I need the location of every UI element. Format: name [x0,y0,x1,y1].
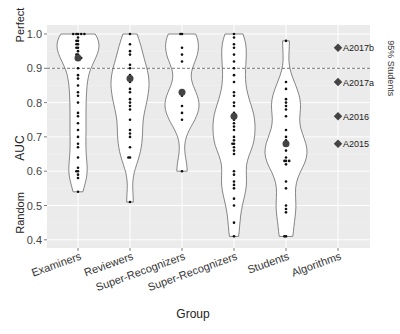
data-point [285,40,288,43]
data-point [181,118,184,121]
data-point [83,33,86,36]
data-point [233,33,236,36]
data-point [285,88,288,91]
data-point [77,166,80,169]
y-annotation-perfect: Perfect [14,8,26,43]
data-point [233,139,236,142]
mean-marker [75,55,82,62]
data-point [75,46,78,49]
violin-chart: A2017bA2017aA2016A2015 0.40.50.60.70.80.… [0,0,400,334]
data-point [233,60,236,63]
data-point [285,136,288,139]
x-tick-label: Algorithms [290,249,343,278]
data-point [233,204,236,207]
x-tick-label: Super-Recognizers [146,249,239,293]
data-point [129,53,132,56]
data-point [233,101,236,104]
data-point [129,50,132,53]
data-point [179,33,182,36]
data-point [75,43,78,46]
algorithm-label: A2015 [343,139,369,149]
algorithm-label: A2017b [343,43,374,53]
data-point [129,101,132,104]
data-point [129,88,132,91]
data-point [77,122,80,125]
data-point [129,146,132,149]
y-tick-label: 0.7 [27,131,42,143]
data-point [77,74,80,77]
data-point [233,235,236,238]
data-point [233,53,236,56]
data-point [233,46,236,49]
data-point [285,81,288,84]
data-point [285,187,288,190]
data-point [233,94,236,97]
data-point [233,221,236,224]
data-point [181,112,184,115]
data-point [129,108,132,111]
data-point [77,136,80,139]
data-point [233,173,236,176]
data-point [233,81,236,84]
data-point [129,43,132,46]
data-point [231,142,234,145]
y-tick-label: 0.9 [27,62,42,74]
data-point [129,118,132,121]
data-point [77,101,80,104]
data-point [77,190,80,193]
data-point [285,180,288,183]
data-point [233,153,236,156]
data-point [285,163,288,166]
data-point [129,201,132,204]
data-point [233,105,236,108]
mean-marker [179,89,186,96]
data-point [233,149,236,152]
data-point [77,36,80,39]
mean-marker [127,75,134,82]
data-point [80,33,83,36]
data-point [233,43,236,46]
data-point [77,146,80,149]
data-point [75,170,78,173]
data-point [233,91,236,94]
y-tick-label: 0.8 [27,97,42,109]
y-tick-label: 0.6 [27,165,42,177]
y-axis-title: AUC [13,135,27,161]
data-point [233,136,236,139]
data-point [233,184,236,187]
data-point [233,67,236,70]
data-point [129,64,132,67]
data-point [77,84,80,87]
x-tick-label: Examiners [30,249,83,278]
data-point [77,77,80,80]
data-point [77,67,80,70]
y-annotation-random: Random [14,192,26,234]
data-point [129,98,132,101]
data-point [285,101,288,104]
data-point [181,105,184,108]
data-point [233,170,236,173]
data-point [285,149,288,152]
data-point [77,94,80,97]
data-point [283,160,286,163]
data-point [233,146,236,149]
algorithm-label: A2016 [343,112,369,122]
data-point [285,211,288,214]
y-tick-label: 0.4 [27,234,42,246]
data-point [181,53,184,56]
data-point [77,142,80,145]
data-point [77,91,80,94]
data-point [285,108,288,111]
x-axis-title: Group [176,307,210,321]
reference-line-label: 95% Students [386,40,396,97]
data-point [233,197,236,200]
data-point [285,156,288,159]
data-point [181,170,184,173]
data-point [285,115,288,118]
data-point [129,129,132,132]
data-point [233,187,236,190]
algorithm-label: A2017a [343,78,374,88]
data-point [285,208,288,211]
data-point [77,173,80,176]
x-axis: ExaminersReviewersSuper-RecognizersSuper… [30,248,343,293]
